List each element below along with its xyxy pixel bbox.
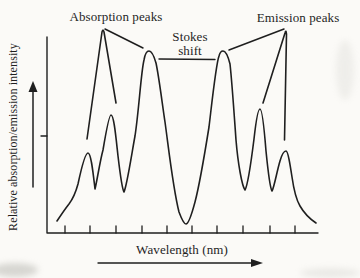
y-axis-title: Relative absorption/emission intensity (6, 43, 20, 231)
x-axis-ticks (65, 226, 295, 233)
scan-smudge (336, 40, 354, 100)
emission-tall-peak-curve (263, 31, 287, 140)
stokes-shift-label-line1: Stokes (172, 30, 207, 44)
stokes-shift-label: Stokes shift (172, 30, 207, 58)
stokes-shift-label-line2: shift (172, 44, 207, 58)
emission-peaks-label: Emission peaks (257, 11, 340, 25)
absorption-peaks-label: Absorption peaks (70, 10, 163, 24)
stokes-shift-span-line (159, 59, 215, 60)
scan-smudge (300, 268, 360, 278)
x-axis-title: Wavelength (nm) (136, 243, 228, 257)
up-arrowhead-icon (29, 81, 38, 92)
absorption-label-pointer-line (105, 29, 143, 48)
absorption-tall-peak-curve (87, 30, 116, 139)
right-arrowhead-icon (251, 259, 263, 267)
emission-label-pointer-line (229, 29, 284, 50)
